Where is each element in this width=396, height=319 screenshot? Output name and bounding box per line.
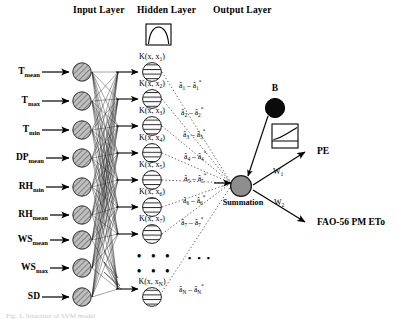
transfer-function-box [272,124,298,148]
hidden-ellipsis-row-1: • • • [137,249,173,264]
hidden-label-k4: K(x, x4) [139,133,165,144]
kernel-function-box [146,24,171,45]
input-label-rhmean: RHmean [0,209,48,221]
alpha-label-n: âN – âN* [179,283,204,295]
bias-arrow [248,116,268,176]
output-arrows [253,152,305,222]
alpha-ellipsis: • • • [188,253,212,263]
hidden-label-k6: K(x, x6) [139,187,165,198]
hidden-label-k7: K(x, x7) [139,214,165,225]
header-hidden-layer: Hidden Layer [137,5,196,15]
input-label-wsmean: WSmean [0,234,48,246]
hidden-label-k2: K(x, x2) [139,79,165,90]
bias-label: B [272,83,278,93]
hidden-ellipsis-row-2: • • • [137,264,173,279]
alpha-label-2: â2 – â2* [181,106,203,118]
alpha-label-7: â7 – â7* [181,216,203,228]
header-output-layer: Output Layer [213,5,272,15]
alpha-label-6: â6 – â6* [183,194,205,206]
alpha-label-5: â5 – â5* [184,172,206,184]
alpha-label-1: â1 – â1* [179,79,201,91]
input-label-dpmean: DPmean [0,152,44,164]
input-label-tmean: Tmean [0,66,40,78]
summation-node [231,176,252,197]
input-nodes [73,63,91,306]
weight-label-w1: W1 [273,167,283,178]
svm-architecture-diagram: Input Layer Hidden Layer Output Layer Tm… [0,0,396,319]
hidden-ellipsis-connectors [104,250,122,290]
figure-caption: Fig. 1. Structure of SVM model [6,312,95,319]
alpha-label-4: â4 – â4* [184,150,206,162]
input-label-tmax: Tmax [0,95,40,107]
bias-node [265,98,284,117]
hidden-label-k3: K(x, x3) [139,106,165,117]
weight-label-w2: W2 [274,198,284,209]
hidden-label-k1: K(x, x1) [139,52,165,63]
summation-label: Summation [223,198,264,207]
hidden-label-k5: K(x, x5) [139,160,165,171]
output-label-pe: PE [317,146,329,156]
input-label-sd: SD [0,291,40,303]
input-label-rhmin: RHmin [0,181,44,193]
alpha-label-3: â3 – â3* [183,128,205,140]
synapse-mesh [92,72,118,297]
input-label-wsmax: WSmax [0,262,48,274]
header-input-layer: Input Layer [73,5,125,15]
input-label-tmin: Tmin [0,124,40,136]
hidden-input-arrows [116,72,138,289]
output-label-eto: FAO-56 PM ETo [317,217,385,227]
